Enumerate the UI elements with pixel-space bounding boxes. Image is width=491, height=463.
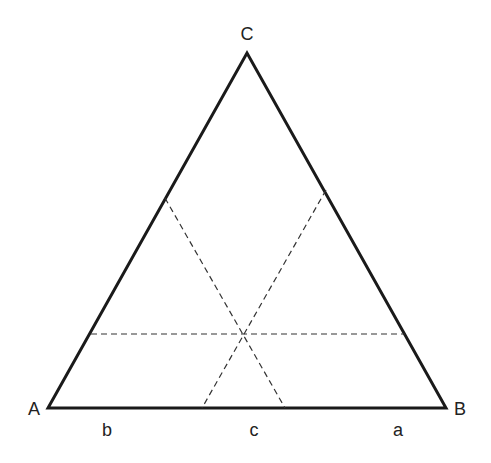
ternary-diagram: C A B b c a — [0, 0, 491, 463]
vertex-label-b: B — [454, 399, 466, 419]
dashed-line-left-to-base — [165, 198, 285, 408]
dashed-line-right-to-base — [202, 190, 326, 408]
base-label-b: b — [102, 420, 112, 440]
triangle-outline — [48, 53, 446, 408]
base-label-a: a — [393, 420, 404, 440]
base-label-c: c — [250, 420, 259, 440]
vertex-label-c: C — [241, 24, 254, 44]
vertex-label-a: A — [28, 399, 40, 419]
